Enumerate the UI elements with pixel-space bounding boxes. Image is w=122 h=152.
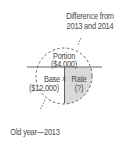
pointer-bottom [40,100,45,110]
annotation-bottom: Old year—2013 [8,128,63,137]
base-value: ($12,000) [25,84,64,93]
rate-value: (?) [69,84,88,93]
annotation-top-line2: 2013 and 2014 [65,22,114,31]
portion-value: ($4,000) [43,60,85,69]
annotation-top-line1: Difference from [65,12,114,21]
pointer-top [78,38,81,45]
